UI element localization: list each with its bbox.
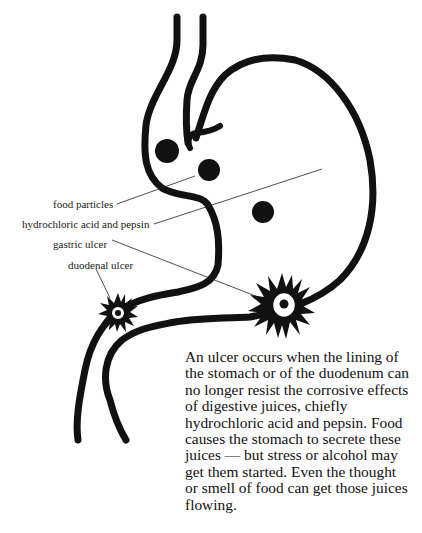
caption-line: An ulcer occurs when the lining of <box>185 349 417 365</box>
label-gastric-ulcer: gastric ulcer <box>53 238 107 250</box>
caption-line: the stomach or of the duodenum can <box>185 365 417 381</box>
food-particle-1 <box>155 139 179 163</box>
label-acid-pepsin: hydrochloric acid and pepsin <box>22 218 149 230</box>
caption-line: or smell of food can get those juices <box>185 480 417 496</box>
caption-line: flowing. <box>185 497 417 513</box>
food-particle-3 <box>252 201 274 223</box>
caption-line: get them started. Even the thought <box>185 464 417 480</box>
caption-line: of digestive juices, chiefly <box>185 398 417 414</box>
leader-duodenal-ulcer <box>96 269 110 298</box>
label-duodenal-ulcer: duodenal ulcer <box>68 259 133 271</box>
caption-text: An ulcer occurs when the lining of the s… <box>185 349 417 513</box>
caption-line: juices — but stress or alcohol may <box>185 447 417 463</box>
caption-line: causes the stomach to secrete these <box>185 431 417 447</box>
stomach-ulcer-figure: food particles hydrochloric acid and pep… <box>0 0 422 533</box>
caption-line: hydrochloric acid and pepsin. Food <box>185 415 417 431</box>
gastric-ulcer-icon <box>248 273 316 339</box>
caption-line: no longer resist the corrosive effects <box>185 382 417 398</box>
leader-gastric-ulcer <box>112 240 276 304</box>
food-particle-2 <box>198 159 220 181</box>
label-food-particles: food particles <box>53 198 113 210</box>
